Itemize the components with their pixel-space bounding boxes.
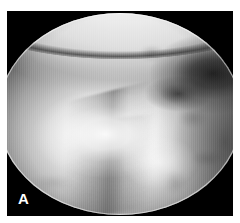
cartilage-crease xyxy=(7,100,233,214)
lateral-shadow xyxy=(7,13,233,215)
panel-label: A xyxy=(18,191,29,206)
tissue-texture xyxy=(7,13,233,215)
femoral-condyle xyxy=(7,13,233,215)
specular-highlight xyxy=(7,13,233,215)
arthroscope-field-of-view xyxy=(7,13,233,215)
meniscal-cleft xyxy=(7,13,233,215)
scope-rim-highlight xyxy=(7,13,233,215)
arthroscopy-photo-frame: A xyxy=(7,11,233,216)
scan-line-artifact xyxy=(7,13,233,215)
meniscus-edge xyxy=(7,53,233,214)
figure-panel: A xyxy=(0,0,240,223)
scope-vignette xyxy=(7,13,233,215)
tissue-base-layer xyxy=(7,13,233,215)
condyle-sulcus xyxy=(7,13,233,215)
